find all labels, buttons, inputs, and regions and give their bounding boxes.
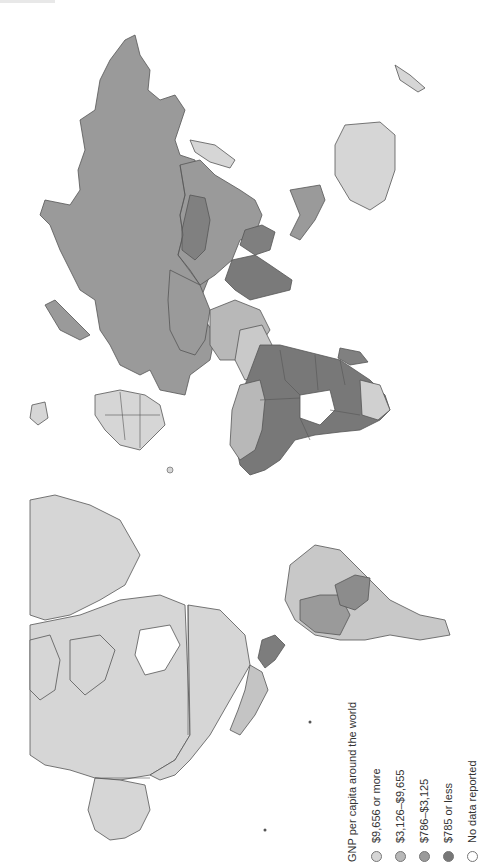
- swatch-circle-icon: [371, 851, 382, 862]
- island: [309, 721, 312, 724]
- legend-label: $3,126–$9,655: [394, 770, 406, 843]
- region-central-america: [258, 635, 285, 668]
- region-western-europe: [95, 390, 165, 450]
- swatch-circle-icon: [467, 851, 478, 862]
- region-south-africa: [360, 380, 390, 420]
- region-australia: [335, 122, 395, 210]
- legend-item-lower-middle: $786–$3,125: [418, 779, 430, 862]
- region-new-zealand: [395, 65, 425, 92]
- swatch-circle-icon: [395, 851, 406, 862]
- island: [167, 467, 173, 473]
- swatch-circle-icon: [443, 851, 454, 862]
- region-alaska: [88, 778, 150, 840]
- legend-item-upper-middle: $3,126–$9,655: [394, 770, 406, 862]
- island: [264, 829, 267, 832]
- legend-label: $786–$3,125: [418, 779, 430, 843]
- legend-label: No data reported: [466, 760, 478, 843]
- legend-item-no-data: No data reported: [466, 760, 478, 862]
- legend-label: $9,656 or more: [370, 768, 382, 843]
- legend-title: GNP per capita around the world: [346, 702, 358, 862]
- legend-label: $785 or less: [442, 783, 454, 843]
- legend-item-low: $785 or less: [442, 783, 454, 862]
- legend-item-high: $9,656 or more: [370, 768, 382, 862]
- map-legend: GNP per capita around the world $9,656 o…: [332, 690, 482, 866]
- region-scandinavia: [45, 300, 90, 340]
- region-uk: [30, 402, 48, 425]
- swatch-circle-icon: [419, 851, 430, 862]
- region-indonesia: [290, 185, 325, 240]
- region-south-asia: [225, 255, 292, 300]
